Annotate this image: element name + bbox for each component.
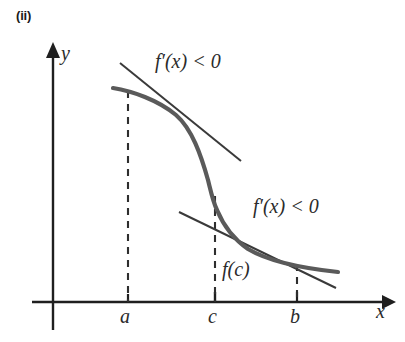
function-curve: [113, 88, 338, 272]
y-axis-arrow-icon: [46, 42, 60, 58]
x-tick-label-a: a: [120, 305, 130, 328]
annotation-function-value-at-c: f(c): [222, 258, 250, 281]
axes-group: [32, 42, 396, 330]
x-tick-label-b: b: [290, 305, 300, 328]
y-axis-label: y: [61, 42, 70, 65]
x-tick-marks: [128, 292, 297, 302]
annotation-derivative-upper: f′(x) < 0: [155, 50, 221, 73]
tangent-lines-group: [120, 63, 336, 288]
tangent-line-lower: [179, 212, 336, 288]
x-tick-label-c: c: [208, 305, 217, 328]
figure-panel-ii: (ii): [0, 0, 405, 342]
annotation-derivative-lower: f′(x) < 0: [253, 195, 319, 218]
x-axis-label: x: [376, 300, 385, 323]
tangent-line-upper: [120, 63, 241, 161]
